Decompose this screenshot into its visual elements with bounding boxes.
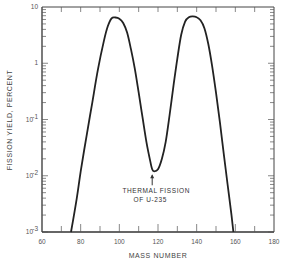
annotation-line-1: THERMAL FISSION [122,187,190,194]
x-tick-label: 80 [77,238,85,245]
arrowhead-icon [150,174,154,178]
y-tick-label: 1 [34,59,38,66]
x-tick-label: 140 [191,238,202,245]
annotation-line-2: OF U-235 [134,196,167,203]
x-tick-label: 180 [269,238,280,245]
x-axis-title: MASS NUMBER [129,252,188,259]
y-tick-label: 10 [31,3,39,10]
y-tick-exponent: -1 [32,113,38,120]
y-axis-title: FISSION YIELD, PERCENT [6,70,13,171]
annotation-thermal-fission: THERMAL FISSION OF U-235 [122,174,190,203]
x-tick-label: 160 [230,238,241,245]
x-tick-label: 100 [114,238,125,245]
x-tick-label: 120 [153,238,164,245]
y-tick-exponent: -2 [32,169,38,176]
fission-yield-chart: 10110-110-210-3 6080100120140160180 THER… [0,0,283,264]
x-tick-label: 60 [38,238,46,245]
y-tick-exponent: -3 [32,225,38,232]
